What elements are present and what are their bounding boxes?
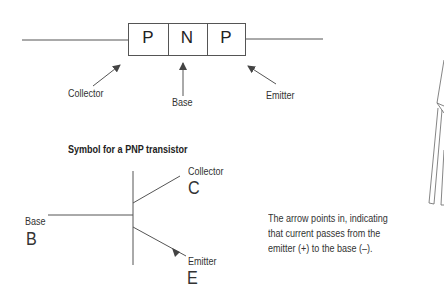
emitter-label: Emitter (266, 89, 295, 101)
layer-p-collector: P (129, 28, 167, 48)
symbol-collector-label: Collector (188, 165, 224, 177)
base-label: Base (172, 96, 193, 108)
explanation-note: The arrow points in, indicating that cur… (268, 211, 444, 256)
emitter-arrow-icon (172, 248, 180, 257)
symbol-emitter-label: Emitter (188, 255, 217, 267)
note-line: The arrow points in, indicating (268, 211, 444, 226)
symbol-title: Symbol for a PNP transistor (68, 143, 188, 155)
symbol-emitter-letter: E (187, 267, 198, 289)
note-line: emitter (+) to the base (–). (268, 241, 444, 256)
collector-arrow-icon (93, 65, 120, 86)
note-line: that current passes from the (268, 226, 444, 241)
collector-wire (133, 176, 180, 203)
symbol-collector-letter: C (188, 177, 200, 199)
layer-n-base: N (168, 28, 206, 48)
symbol-base-label: Base (25, 215, 46, 227)
transistor-component-partial-icon (429, 60, 444, 205)
collector-label: Collector (68, 87, 104, 99)
symbol-base-letter: B (26, 228, 37, 250)
emitter-arrow-icon (248, 66, 276, 84)
layer-p-emitter: P (207, 28, 245, 48)
